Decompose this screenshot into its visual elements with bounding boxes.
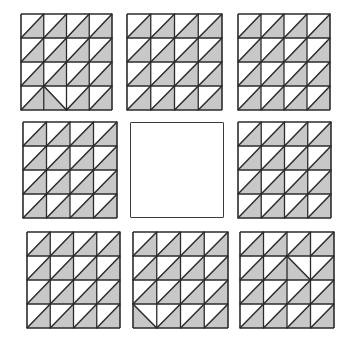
- grid-cell: [261, 170, 284, 194]
- grid-cell: [89, 38, 112, 62]
- grid-cell: [238, 194, 261, 218]
- grid-cell: [264, 280, 288, 304]
- grid-cell: [307, 62, 330, 86]
- grid-cell: [74, 280, 97, 304]
- grid-cell: [238, 14, 261, 38]
- grid-cell: [261, 146, 284, 170]
- grid-cell: [47, 170, 71, 194]
- grid-cell: [133, 304, 157, 328]
- grid-cell: [285, 170, 308, 194]
- grid-cell: [287, 304, 311, 328]
- grid-cell: [240, 304, 264, 328]
- answer-slot-blank[interactable]: [130, 122, 224, 218]
- grid-cell: [74, 256, 97, 280]
- grid-cell: [94, 194, 118, 218]
- grid-cell: [97, 232, 120, 256]
- grid-cell: [181, 280, 205, 304]
- pattern-panel-2-1: [23, 122, 117, 218]
- grid-cell: [264, 304, 288, 328]
- triangle-grid: [133, 232, 228, 328]
- pattern-panel-3-1: [27, 232, 120, 328]
- grid-cell: [23, 146, 47, 170]
- grid-cell: [27, 256, 50, 280]
- triangle-grid: [240, 232, 334, 328]
- grid-cell: [198, 14, 222, 38]
- grid-cell: [181, 232, 205, 256]
- grid-cell: [181, 304, 205, 328]
- pattern-panel-3-3: [240, 232, 334, 328]
- grid-cell: [308, 194, 331, 218]
- grid-cell: [175, 62, 199, 86]
- grid-cell: [157, 256, 181, 280]
- pattern-panel-1-3: [238, 14, 330, 110]
- grid-cell: [287, 232, 311, 256]
- grid-cell: [308, 146, 331, 170]
- grid-cell: [67, 14, 90, 38]
- grid-cell: [238, 170, 261, 194]
- grid-cell: [284, 62, 307, 86]
- pattern-panel-2-3: [238, 122, 331, 218]
- grid-cell: [198, 38, 222, 62]
- grid-cell: [287, 280, 311, 304]
- grid-cell: [284, 86, 307, 110]
- grid-cell: [89, 86, 112, 110]
- grid-cell: [70, 170, 94, 194]
- grid-cell: [21, 86, 44, 110]
- grid-cell: [238, 62, 261, 86]
- grid-cell: [261, 62, 284, 86]
- grid-cell: [74, 304, 97, 328]
- triangle-grid: [23, 122, 117, 218]
- grid-cell: [264, 232, 288, 256]
- grid-cell: [23, 170, 47, 194]
- grid-cell: [261, 14, 284, 38]
- grid-cell: [307, 38, 330, 62]
- grid-cell: [47, 194, 71, 218]
- grid-cell: [311, 232, 335, 256]
- triangle-grid: [127, 14, 222, 110]
- grid-cell: [151, 62, 175, 86]
- grid-cell: [175, 86, 199, 110]
- grid-cell: [94, 146, 118, 170]
- grid-cell: [311, 280, 335, 304]
- grid-cell: [74, 232, 97, 256]
- grid-cell: [67, 86, 90, 110]
- grid-cell: [311, 304, 335, 328]
- grid-cell: [238, 86, 261, 110]
- grid-cell: [287, 256, 311, 280]
- grid-cell: [127, 14, 151, 38]
- grid-cell: [308, 170, 331, 194]
- grid-cell: [238, 146, 261, 170]
- grid-cell: [311, 256, 335, 280]
- grid-cell: [240, 232, 264, 256]
- triangle-grid: [27, 232, 120, 328]
- grid-cell: [284, 38, 307, 62]
- grid-cell: [308, 122, 331, 146]
- grid-cell: [261, 86, 284, 110]
- grid-cell: [181, 256, 205, 280]
- grid-cell: [70, 146, 94, 170]
- grid-cell: [175, 38, 199, 62]
- grid-cell: [94, 122, 118, 146]
- grid-cell: [97, 280, 120, 304]
- grid-cell: [21, 14, 44, 38]
- pattern-panel-3-2: [133, 232, 228, 328]
- grid-cell: [285, 194, 308, 218]
- grid-cell: [204, 232, 228, 256]
- grid-cell: [240, 256, 264, 280]
- grid-cell: [284, 14, 307, 38]
- grid-cell: [204, 304, 228, 328]
- grid-cell: [127, 86, 151, 110]
- grid-cell: [264, 256, 288, 280]
- grid-cell: [50, 280, 73, 304]
- grid-cell: [44, 62, 67, 86]
- grid-cell: [198, 86, 222, 110]
- triangle-grid: [238, 122, 331, 218]
- grid-cell: [21, 38, 44, 62]
- grid-cell: [261, 194, 284, 218]
- triangle-grid: [21, 14, 112, 110]
- grid-cell: [261, 122, 284, 146]
- grid-cell: [307, 86, 330, 110]
- grid-cell: [67, 38, 90, 62]
- grid-cell: [70, 122, 94, 146]
- grid-cell: [97, 304, 120, 328]
